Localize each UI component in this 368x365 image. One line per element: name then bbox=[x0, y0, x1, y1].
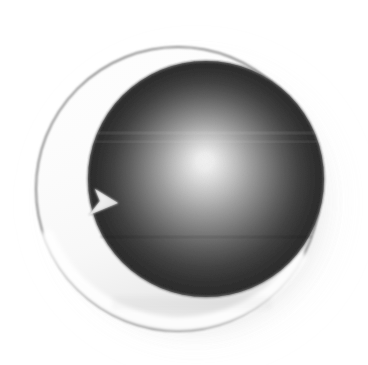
inner-sphere bbox=[88, 61, 325, 298]
watermark-band bbox=[112, 296, 272, 310]
sphere-refresh-logo bbox=[0, 0, 368, 365]
logo-canvas: Sphere Refresh Logo bbox=[0, 0, 368, 365]
